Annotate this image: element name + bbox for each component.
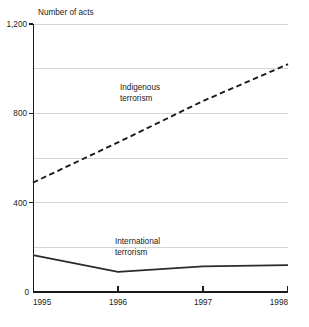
y-axis-title: Number of acts: [38, 8, 94, 17]
annotation-indigenous-line2: terrorism: [120, 94, 152, 103]
x-tick-label-1997: 1997: [194, 298, 213, 307]
x-axis-ticks: [34, 286, 288, 292]
annotation-indigenous-line1: Indigenous: [120, 83, 160, 92]
y-tick-label-1200: 1,200: [7, 20, 28, 29]
x-tick-label-1998: 1998: [270, 298, 289, 307]
x-tick-label-1995: 1995: [33, 298, 52, 307]
gridlines: [33, 24, 288, 247]
x-tick-label-1996: 1996: [109, 298, 128, 307]
annotation-international-line1: International: [115, 237, 160, 246]
y-tick-label-0: 0: [24, 288, 29, 297]
annotation-indigenous-terrorism: Indigenous terrorism: [120, 83, 160, 103]
y-tick-label-800: 800: [13, 109, 27, 118]
series-line-indigenous-terrorism: [33, 64, 288, 182]
line-chart: Number of acts 1,200 800 400 0 1995 1996…: [0, 0, 309, 327]
series-line-international-terrorism: [33, 255, 288, 272]
chart-figure: Number of acts 1,200 800 400 0 1995 1996…: [0, 0, 309, 327]
y-tick-label-400: 400: [13, 199, 27, 208]
y-axis-ticks: [29, 24, 33, 203]
annotation-international-line2: terrorism: [115, 248, 147, 257]
